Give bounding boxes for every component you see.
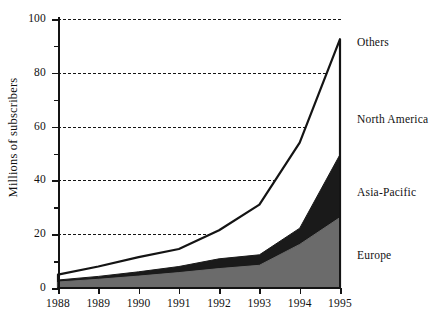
y-tick-100 xyxy=(52,19,59,21)
series-label-others: Others xyxy=(357,36,389,48)
series-label-north-america: North America xyxy=(357,113,428,125)
y-tick-label-60: 60 xyxy=(0,121,46,133)
series-label-europe: Europe xyxy=(357,249,391,261)
area-series-group xyxy=(0,0,447,324)
series-label-asia-pacific: Asia-Pacific xyxy=(357,186,416,198)
x-tick-label-1992: 1992 xyxy=(197,297,241,309)
x-tick-1991 xyxy=(179,288,181,294)
x-tick-1989 xyxy=(98,288,100,294)
y-tick-60 xyxy=(52,127,59,129)
y-tick-label-100: 100 xyxy=(0,13,46,25)
x-tick-label-1989: 1989 xyxy=(76,297,120,309)
stacked-area-chart: Millions of subscribers 100 80 60 40 20 … xyxy=(0,0,447,324)
y-tick-label-0: 0 xyxy=(0,282,46,294)
x-tick-1995 xyxy=(340,288,342,294)
y-tick-50 xyxy=(54,154,59,156)
x-tick-label-1993: 1993 xyxy=(237,297,281,309)
x-axis-line xyxy=(58,287,341,289)
y-tick-90 xyxy=(54,46,59,48)
x-tick-label-1991: 1991 xyxy=(157,297,201,309)
x-tick-label-1990: 1990 xyxy=(117,297,161,309)
y-tick-70 xyxy=(54,100,59,102)
x-tick-1988 xyxy=(58,288,60,294)
y-tick-label-80: 80 xyxy=(0,67,46,79)
x-tick-1992 xyxy=(219,288,221,294)
y-tick-80 xyxy=(52,73,59,75)
x-tick-label-1994: 1994 xyxy=(278,297,322,309)
y-tick-10 xyxy=(54,261,59,263)
y-tick-30 xyxy=(54,207,59,209)
x-tick-1994 xyxy=(300,288,302,294)
y-tick-label-40: 40 xyxy=(0,174,46,186)
y-tick-20 xyxy=(52,234,59,236)
x-tick-label-1988: 1988 xyxy=(36,297,80,309)
x-tick-1990 xyxy=(139,288,141,294)
x-tick-1993 xyxy=(259,288,261,294)
y-tick-label-20: 20 xyxy=(0,228,46,240)
y-tick-40 xyxy=(52,180,59,182)
x-tick-label-1995: 1995 xyxy=(318,297,362,309)
